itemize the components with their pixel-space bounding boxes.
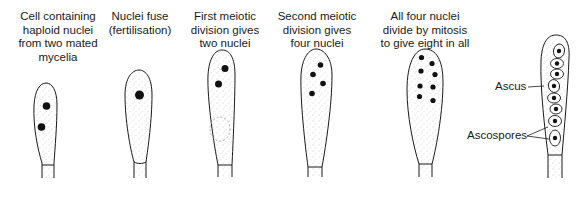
ascospores-label: Ascospores <box>467 129 527 142</box>
nucleus-icon <box>432 72 437 77</box>
stage-6-ascus <box>541 35 569 178</box>
ascus-label: Ascus <box>495 80 526 93</box>
nucleus-icon <box>430 98 435 103</box>
nucleus-icon <box>310 72 316 78</box>
nucleus-icon <box>309 91 315 97</box>
stage-4-cell <box>301 49 332 177</box>
nucleus-icon <box>38 123 46 131</box>
nucleus-icon <box>222 65 229 72</box>
nucleus-icon <box>215 81 222 88</box>
nucleus-icon <box>429 61 434 66</box>
nucleus-icon <box>43 102 51 110</box>
nucleus-icon <box>419 55 424 60</box>
nucleus-icon <box>135 91 144 100</box>
ascus-development-diagram: Cell containing haploid nuclei from two … <box>0 0 581 198</box>
nucleus-icon <box>418 68 423 73</box>
stage-3-cell <box>208 50 235 177</box>
nucleus-icon <box>417 94 422 99</box>
stage-5-cell <box>407 49 443 177</box>
stage-1-cell <box>34 83 57 178</box>
stage-2-cell <box>125 70 152 178</box>
nucleus-icon <box>320 81 326 87</box>
nucleus-icon <box>318 62 324 68</box>
nucleus-icon <box>417 83 422 88</box>
nucleus-icon <box>430 84 435 89</box>
cell-drawings <box>0 0 581 198</box>
